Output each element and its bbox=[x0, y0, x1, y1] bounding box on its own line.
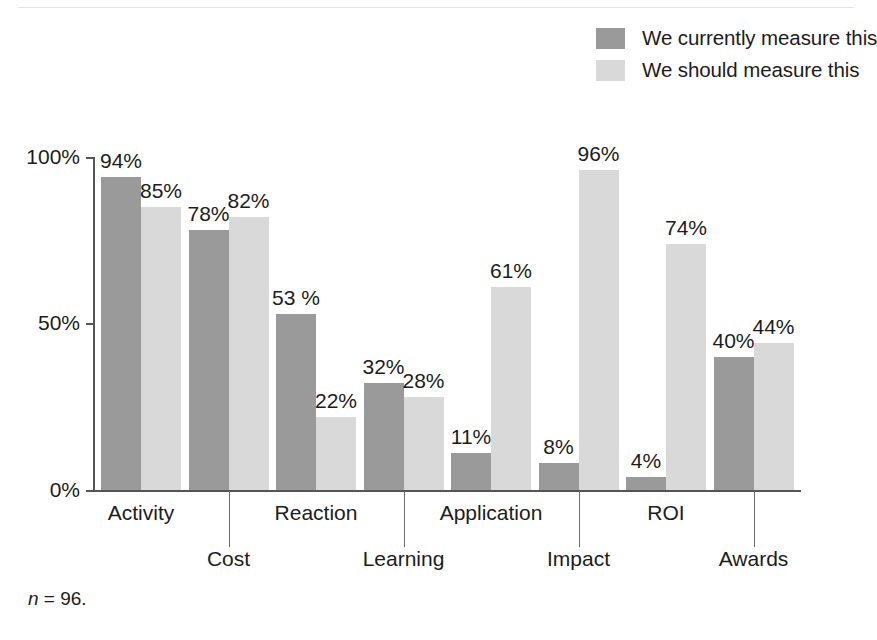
bar bbox=[229, 217, 269, 490]
bar bbox=[101, 177, 141, 490]
category-label-roi: ROI bbox=[647, 501, 684, 525]
bar bbox=[666, 244, 706, 490]
bar-value-label: 22% bbox=[315, 389, 357, 413]
bar bbox=[714, 357, 754, 490]
bar bbox=[451, 453, 491, 490]
category-label-reaction: Reaction bbox=[275, 501, 358, 525]
bar bbox=[364, 383, 404, 490]
bar-value-label: 32% bbox=[362, 355, 404, 379]
bar bbox=[579, 170, 619, 490]
bar-value-label: 94% bbox=[100, 149, 142, 173]
bar-value-label: 96% bbox=[577, 142, 619, 166]
category-tick bbox=[229, 491, 230, 547]
y-tick-0 bbox=[86, 490, 93, 492]
bar-value-label: 53 % bbox=[272, 286, 320, 310]
category-label-application: Application bbox=[440, 501, 543, 525]
bar-value-label: 74% bbox=[665, 216, 707, 240]
category-tick bbox=[579, 491, 580, 547]
bar bbox=[754, 343, 794, 490]
bar-value-label: 28% bbox=[402, 369, 444, 393]
bar bbox=[189, 230, 229, 490]
bar-value-label: 40% bbox=[712, 329, 754, 353]
bar-value-label: 61% bbox=[490, 259, 532, 283]
bar bbox=[276, 314, 316, 490]
footnote-n-symbol: n bbox=[28, 588, 39, 609]
bar-value-label: 85% bbox=[140, 179, 182, 203]
bar bbox=[316, 417, 356, 490]
bar bbox=[491, 287, 531, 490]
bar bbox=[141, 207, 181, 490]
chart-footnote: n = 96. bbox=[28, 588, 87, 610]
footnote-text: = 96. bbox=[39, 588, 87, 609]
category-label-awards: Awards bbox=[719, 547, 789, 571]
bar-value-label: 78% bbox=[187, 202, 229, 226]
category-tick bbox=[404, 491, 405, 547]
bar bbox=[539, 463, 579, 490]
x-axis-line bbox=[93, 490, 801, 492]
bar bbox=[626, 477, 666, 490]
bar bbox=[404, 397, 444, 490]
category-label-impact: Impact bbox=[547, 547, 610, 571]
bar-value-label: 82% bbox=[227, 189, 269, 213]
bar-value-label: 11% bbox=[451, 425, 491, 449]
bar-value-label: 4% bbox=[631, 449, 661, 473]
bar-value-label: 8% bbox=[543, 435, 573, 459]
category-tick bbox=[754, 491, 755, 547]
bar-value-label: 44% bbox=[752, 315, 794, 339]
bars-layer: 94%85%78%82%53 %22%32%28%11%61%8%96%4%74… bbox=[0, 0, 870, 490]
category-label-learning: Learning bbox=[363, 547, 445, 571]
category-label-cost: Cost bbox=[207, 547, 250, 571]
category-label-activity: Activity bbox=[108, 501, 175, 525]
